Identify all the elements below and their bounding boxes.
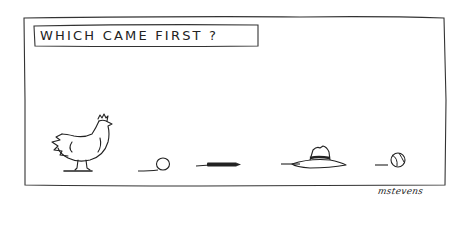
artist-signature: mstevens <box>377 186 424 196</box>
egg-icon <box>138 158 170 171</box>
cartoon-caption: WHICH CAME FIRST ? <box>40 27 218 45</box>
hat-icon <box>281 146 346 168</box>
pen-icon <box>196 163 241 167</box>
chicken-icon <box>52 114 112 171</box>
baseball-icon <box>375 153 405 167</box>
